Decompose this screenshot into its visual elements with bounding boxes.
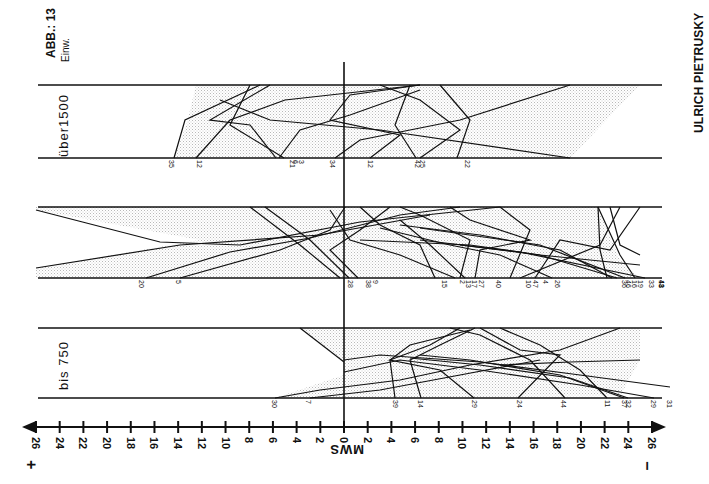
station-label: 14 <box>417 400 424 408</box>
axis-tick-label: 4 <box>291 437 303 443</box>
station-label: 28 <box>347 280 354 288</box>
station-label: 29 <box>650 400 657 408</box>
station-label: 12 <box>367 160 374 168</box>
axis-tick-label: 26 <box>30 437 42 449</box>
axis-tick-label: 6 <box>409 437 421 443</box>
station-label: 38 <box>365 280 372 288</box>
axis-tick-label: 14 <box>172 437 184 449</box>
station-label: 5 <box>175 280 182 284</box>
axis-left-arrow-icon <box>22 421 36 433</box>
axis-tick-label: 8 <box>243 437 255 443</box>
figure-label: ABB.: 13 <box>44 8 58 58</box>
station-label: 7 <box>305 400 312 404</box>
station-label: 4 <box>542 280 549 284</box>
axis-tick-label: 6 <box>267 437 279 443</box>
station-label: 12 <box>196 160 203 168</box>
axis-minus-sign: − <box>638 461 656 470</box>
axis-right-arrow-icon <box>652 421 666 433</box>
station-label: 44 <box>560 400 567 408</box>
station-label: 30 <box>271 400 278 408</box>
station-label: 27 <box>478 280 485 288</box>
axis-tick-label: 26 <box>646 437 658 449</box>
station-label: 47 <box>532 280 539 288</box>
axis-title: MWS <box>329 442 364 457</box>
station-label: 20 <box>138 280 145 288</box>
band-label-bottom: bis 750 <box>56 341 71 390</box>
station-label: 3 <box>298 160 305 164</box>
chart-canvas <box>0 0 709 484</box>
station-label: 40 <box>495 280 502 288</box>
axis-tick-label: 16 <box>528 437 540 449</box>
axis-tick-label: 4 <box>385 437 397 443</box>
station-label: 25 <box>419 160 426 168</box>
axis-tick-label: 10 <box>456 437 468 449</box>
station-label: 19 <box>637 280 644 288</box>
axis-tick-label: 18 <box>125 437 137 449</box>
axis-tick-label: 22 <box>77 437 89 449</box>
author-name: ULRICH PIETRUSKY <box>692 12 706 133</box>
axis-tick-label: 18 <box>551 437 563 449</box>
station-label: 9 <box>372 280 379 284</box>
station-label: 10 <box>525 280 532 288</box>
station-label: 15 <box>441 280 448 288</box>
axis-tick-label: 8 <box>433 437 445 443</box>
axis-tick-label: 12 <box>196 437 208 449</box>
station-label: 32 <box>625 400 632 408</box>
station-label: 31 <box>666 400 673 408</box>
station-label: 24 <box>516 400 523 408</box>
axis-tick-label: 12 <box>480 437 492 449</box>
station-label: 11 <box>604 400 611 407</box>
axis-tick-label: 10 <box>220 437 232 449</box>
station-label: 35 <box>168 160 175 168</box>
station-label: 33 <box>648 280 655 288</box>
axis-plus-sign: + <box>22 460 40 469</box>
station-label: 22 <box>464 160 471 168</box>
axis-tick-label: 20 <box>101 437 113 449</box>
band-label-top: über1500 <box>56 94 71 157</box>
axis-tick-label: 14 <box>504 437 516 449</box>
axis-tick-label: 24 <box>622 437 634 449</box>
axis-tick-label: 22 <box>599 437 611 449</box>
station-label: 29 <box>471 400 478 408</box>
axis-tick-label: 24 <box>54 437 66 449</box>
station-label: 18 <box>658 280 665 288</box>
station-label: 39 <box>392 400 399 408</box>
axis-tick-label: 20 <box>575 437 587 449</box>
station-label: 34 <box>329 160 336 168</box>
axis-tick-label: 2 <box>314 437 326 443</box>
axis-tick-label: 16 <box>148 437 160 449</box>
unit-label: Einw. <box>60 38 71 62</box>
station-label: 26 <box>554 280 561 288</box>
